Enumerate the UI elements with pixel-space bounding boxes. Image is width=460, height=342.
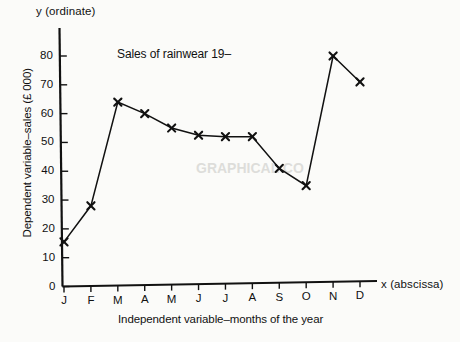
data-point-marker bbox=[141, 110, 148, 117]
axes bbox=[60, 28, 378, 292]
data-series bbox=[60, 52, 363, 245]
plot-area bbox=[0, 0, 460, 342]
data-point-marker bbox=[276, 165, 283, 172]
chart-figure: GRAPHICAL CO y (ordinate) x (abscissa) S… bbox=[0, 0, 460, 342]
series-line bbox=[64, 56, 360, 242]
data-point-marker bbox=[356, 78, 363, 85]
